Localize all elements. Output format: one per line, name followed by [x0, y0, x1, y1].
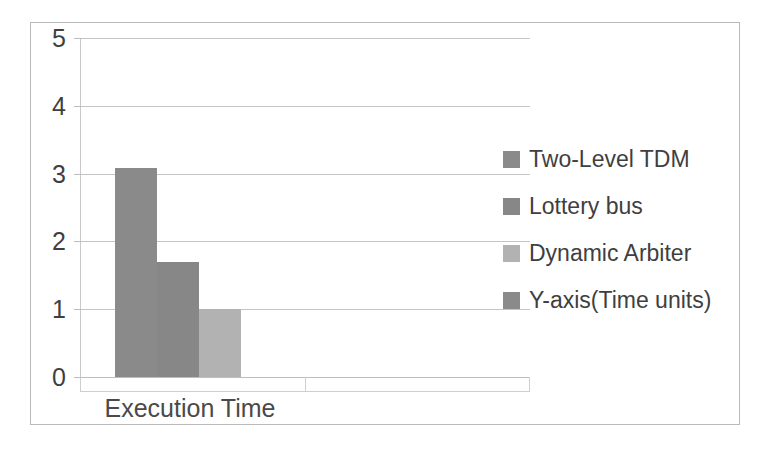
legend-item-label: Two-Level TDM [529, 148, 690, 171]
y-axis-tick [74, 174, 81, 175]
y-axis-tick-label: 5 [32, 26, 66, 51]
y-axis-tick-label: 1 [32, 297, 66, 322]
plot-area [80, 38, 530, 377]
bar-two-level-tdm[interactable] [115, 168, 157, 377]
gridline [80, 38, 530, 39]
legend-item[interactable]: Dynamic Arbiter [503, 230, 711, 277]
legend-item[interactable]: Y-axis(Time units) [503, 277, 711, 324]
bar-lottery-bus[interactable] [157, 262, 199, 377]
y-axis-tick-label: 3 [32, 161, 66, 186]
legend-item-label: Y-axis(Time units) [529, 289, 711, 312]
legend-item[interactable]: Lottery bus [503, 183, 711, 230]
x-axis-tick [80, 377, 81, 392]
y-axis-tick-labels: 543210 [22, 38, 66, 377]
chart-legend: Two-Level TDMLottery busDynamic ArbiterY… [503, 136, 711, 324]
gridline [80, 106, 530, 107]
y-axis-tick-label: 4 [32, 93, 66, 118]
y-axis-tick [74, 309, 81, 310]
y-axis-tick [74, 38, 81, 39]
x-axis-tick [305, 377, 306, 392]
legend-swatch-icon [503, 151, 520, 168]
y-axis-tick [74, 106, 81, 107]
x-axis-tick [529, 377, 530, 392]
bar-dynamic-arbiter[interactable] [199, 309, 241, 377]
legend-swatch-icon [503, 198, 520, 215]
legend-item-label: Lottery bus [529, 195, 643, 218]
x-axis-category-label: Execution Time [80, 396, 300, 421]
legend-swatch-icon [503, 245, 520, 262]
legend-item[interactable]: Two-Level TDM [503, 136, 711, 183]
y-axis-tick-label: 0 [32, 365, 66, 390]
legend-item-label: Dynamic Arbiter [529, 242, 691, 265]
y-axis-tick [74, 377, 81, 378]
x-axis [80, 377, 530, 393]
y-axis-tick [74, 241, 81, 242]
legend-swatch-icon [503, 292, 520, 309]
y-axis-tick-label: 2 [32, 229, 66, 254]
